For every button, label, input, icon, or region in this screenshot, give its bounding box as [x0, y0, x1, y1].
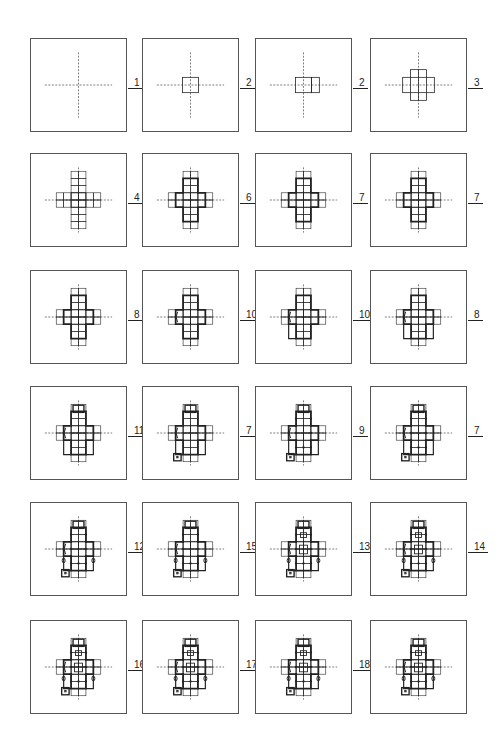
step-label: 7 — [468, 192, 483, 204]
plan-panel-5 — [30, 153, 127, 247]
floor-plan-drawing — [371, 271, 466, 363]
floor-plan-drawing — [371, 39, 466, 131]
floor-plan-drawing — [31, 154, 126, 246]
floor-plan-drawing — [256, 387, 351, 479]
step-label: 1 — [128, 77, 143, 89]
floor-plan-drawing — [31, 271, 126, 363]
plan-panel-1 — [30, 38, 127, 132]
plan-panel-24 — [370, 620, 467, 714]
step-label: 2 — [240, 77, 255, 89]
floor-plan-drawing — [256, 621, 351, 713]
floor-plan-drawing — [256, 503, 351, 595]
floor-plan-drawing — [31, 503, 126, 595]
step-label: 14 — [468, 541, 488, 553]
plan-panel-17 — [30, 502, 127, 596]
plan-panel-13 — [30, 386, 127, 480]
plan-panel-19 — [255, 502, 352, 596]
plan-panel-7 — [255, 153, 352, 247]
step-label: 6 — [240, 192, 255, 204]
floor-plan-drawing — [31, 621, 126, 713]
floor-plan-drawing — [371, 503, 466, 595]
plan-panel-22 — [142, 620, 239, 714]
plan-panel-23 — [255, 620, 352, 714]
plan-panel-2 — [142, 38, 239, 132]
step-label: 2 — [353, 77, 368, 89]
floor-plan-drawing — [143, 154, 238, 246]
floor-plan-drawing — [143, 39, 238, 131]
plan-panel-15 — [255, 386, 352, 480]
step-label: 8 — [128, 309, 143, 321]
floor-plan-drawing — [143, 621, 238, 713]
plan-panel-8 — [370, 153, 467, 247]
plan-panel-11 — [255, 270, 352, 364]
floor-plan-drawing — [143, 387, 238, 479]
floor-plan-drawing — [31, 39, 126, 131]
floor-plan-drawing — [256, 154, 351, 246]
floor-plan-drawing — [371, 387, 466, 479]
floor-plan-drawing — [256, 271, 351, 363]
step-label: 8 — [468, 309, 483, 321]
plan-panel-18 — [142, 502, 239, 596]
plan-panel-14 — [142, 386, 239, 480]
floor-plan-drawing — [256, 39, 351, 131]
step-label: 7 — [468, 425, 483, 437]
plan-panel-9 — [30, 270, 127, 364]
plan-panel-16 — [370, 386, 467, 480]
plan-panel-3 — [255, 38, 352, 132]
plan-panel-4 — [370, 38, 467, 132]
plan-panel-10 — [142, 270, 239, 364]
step-label: 3 — [468, 77, 483, 89]
plan-panel-20 — [370, 502, 467, 596]
floor-plan-drawing — [143, 503, 238, 595]
step-label: 4 — [128, 192, 143, 204]
step-label: 9 — [353, 425, 368, 437]
floor-plan-drawing — [371, 621, 466, 713]
step-label: 7 — [353, 192, 368, 204]
floor-plan-drawing — [143, 271, 238, 363]
step-label: 7 — [240, 425, 255, 437]
plan-panel-21 — [30, 620, 127, 714]
floor-plan-drawing — [371, 154, 466, 246]
plan-panel-12 — [370, 270, 467, 364]
plan-panel-6 — [142, 153, 239, 247]
floor-plan-drawing — [31, 387, 126, 479]
